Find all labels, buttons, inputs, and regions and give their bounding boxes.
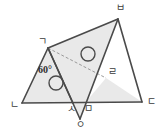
vertex-label-siot: ㅅ bbox=[67, 104, 76, 114]
vertex-label-rieul: ㄹ bbox=[108, 67, 117, 77]
geometry-canvas bbox=[0, 0, 168, 136]
geometry-figure: ㄱ ㄴ ㄷ ㄹ ㅁ ㅂ ㅅ ㅇ 60° bbox=[0, 0, 168, 136]
vertex-label-bieup: ㅂ bbox=[116, 3, 125, 13]
vertex-label-digeut: ㄷ bbox=[147, 97, 156, 107]
vertex-label-mieum: ㅁ bbox=[84, 104, 93, 114]
vertex-label-nieun: ㄴ bbox=[10, 100, 19, 110]
vertex-label-giyeok: ㄱ bbox=[38, 37, 47, 47]
segment-nieun-digeut bbox=[22, 102, 142, 103]
angle-label-60: 60° bbox=[38, 65, 52, 75]
vertex-label-ieung: ㅇ bbox=[76, 120, 85, 130]
